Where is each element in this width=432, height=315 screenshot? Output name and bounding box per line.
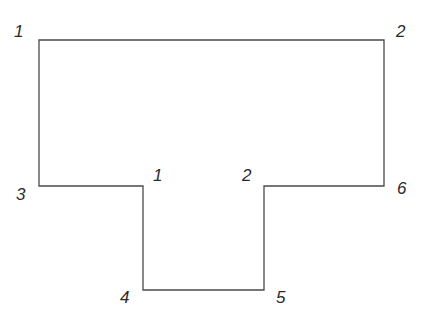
vertex-label-top-left: 1 [14, 22, 23, 41]
vertex-label-bottom-left: 4 [120, 288, 129, 307]
vertex-label-inner-left: 1 [153, 166, 162, 185]
vertex-label-right-bottom: 6 [397, 179, 407, 198]
t-shape-diagram: 1 2 3 1 2 6 4 5 [0, 0, 432, 315]
vertex-label-inner-right: 2 [241, 166, 252, 185]
vertex-label-left-bottom: 3 [16, 185, 26, 204]
vertex-label-bottom-right: 5 [276, 288, 286, 307]
vertex-label-top-right: 2 [395, 22, 406, 41]
t-shape-outline [39, 40, 384, 290]
vertex-labels: 1 2 3 1 2 6 4 5 [14, 22, 407, 307]
